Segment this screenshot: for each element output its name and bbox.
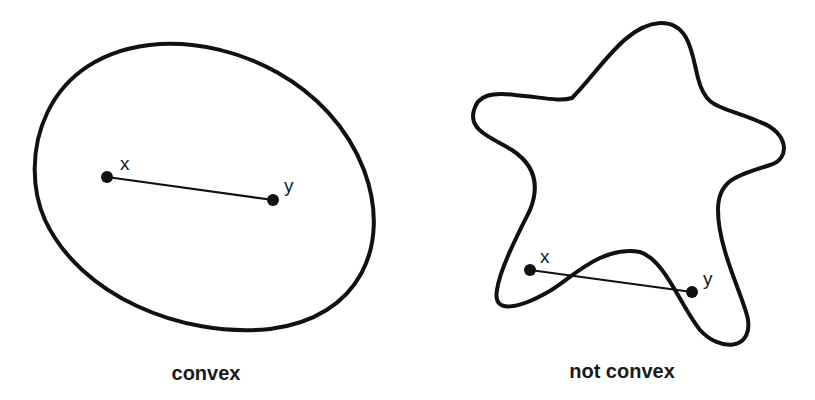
convex-point-y xyxy=(267,194,279,206)
convex-point-x-label: x xyxy=(120,153,130,174)
convex-caption: convex xyxy=(172,362,241,384)
not-convex-point-x-label: x xyxy=(540,246,550,267)
not-convex-point-y-label: y xyxy=(703,268,713,289)
convex-point-y-label: y xyxy=(284,175,294,196)
star-blob-outline xyxy=(473,23,784,345)
not-convex-point-y xyxy=(686,286,698,298)
convex-point-x xyxy=(101,171,113,183)
convex-ellipse-outline xyxy=(35,44,374,330)
convexity-diagram: x y convex x y not convex xyxy=(0,0,815,400)
not-convex-caption: not convex xyxy=(569,360,675,382)
not-convex-point-x xyxy=(524,264,536,276)
convex-segment-xy xyxy=(107,177,273,200)
convex-panel: x y convex xyxy=(35,44,374,384)
not-convex-panel: x y not convex xyxy=(473,23,784,382)
